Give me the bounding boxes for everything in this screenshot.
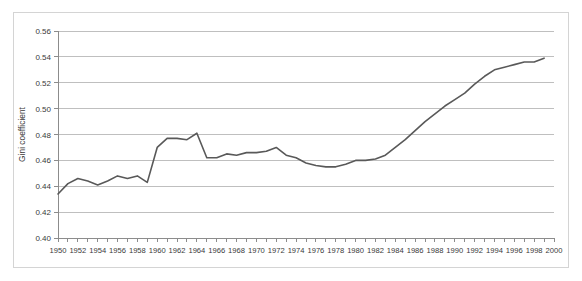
x-axis-tick-label: 1952 bbox=[69, 246, 86, 255]
x-axis-tick-label: 1986 bbox=[407, 246, 424, 255]
x-axis-tick-label: 1994 bbox=[486, 246, 503, 255]
x-axis-tick-label: 1976 bbox=[307, 246, 324, 255]
y-axis-tick-label: 0.46 bbox=[35, 156, 51, 165]
x-axis-tick-label: 1984 bbox=[387, 246, 404, 255]
y-axis-tick-label: 0.42 bbox=[35, 208, 51, 217]
x-axis-tick-label: 1956 bbox=[109, 246, 126, 255]
y-axis-tick-label: 0.48 bbox=[35, 131, 51, 140]
x-axis-tick-label: 1966 bbox=[208, 246, 225, 255]
x-axis-tick-label: 1962 bbox=[169, 246, 186, 255]
gini-series-line bbox=[58, 58, 544, 194]
x-axis-tick-label: 1990 bbox=[446, 246, 463, 255]
y-axis-tick-label: 0.52 bbox=[35, 79, 51, 88]
gridlines bbox=[58, 31, 554, 238]
x-axis-tick-label: 1980 bbox=[347, 246, 364, 255]
x-axis-tick-label: 1958 bbox=[129, 246, 146, 255]
x-axis-tick-label: 1992 bbox=[466, 246, 483, 255]
y-axis-tick-label: 0.44 bbox=[35, 182, 51, 191]
y-axis-tick-label: 0.50 bbox=[35, 105, 51, 114]
x-axis-tick-label: 1968 bbox=[228, 246, 245, 255]
x-axis-tick-label: 1972 bbox=[268, 246, 285, 255]
x-axis-tick-labels: 1950195219541956195819601962196419661968… bbox=[50, 246, 563, 255]
x-axis-tick-label: 1982 bbox=[367, 246, 384, 255]
x-axis-tick-label: 1950 bbox=[50, 246, 67, 255]
x-axis-tick-label: 1978 bbox=[327, 246, 344, 255]
x-axis-tick-label: 1960 bbox=[149, 246, 166, 255]
y-axis-tick-label: 0.56 bbox=[35, 27, 51, 36]
y-axis-tick-label: 0.54 bbox=[35, 53, 51, 62]
x-axis-tick-label: 1988 bbox=[427, 246, 444, 255]
x-axis-tick-label: 1998 bbox=[526, 246, 543, 255]
x-axis-tick-label: 1996 bbox=[506, 246, 523, 255]
chart-container: 0.400.420.440.460.480.500.520.540.56 195… bbox=[13, 12, 569, 268]
y-axis-tick-labels: 0.400.420.440.460.480.500.520.540.56 bbox=[35, 27, 58, 243]
x-axis-tick-label: 1970 bbox=[248, 246, 265, 255]
y-axis-tick-label: 0.40 bbox=[35, 234, 51, 243]
x-axis-tick-label: 1954 bbox=[89, 246, 106, 255]
x-axis-tick-label: 1964 bbox=[188, 246, 205, 255]
y-axis-title: Gini coefficient bbox=[17, 106, 27, 161]
x-axis-tick-label: 2000 bbox=[546, 246, 563, 255]
x-axis-tick-marks bbox=[58, 238, 554, 242]
gini-coefficient-line-chart: 0.400.420.440.460.480.500.520.540.56 195… bbox=[14, 13, 568, 267]
x-axis-tick-label: 1974 bbox=[288, 246, 305, 255]
